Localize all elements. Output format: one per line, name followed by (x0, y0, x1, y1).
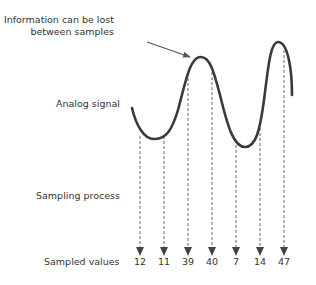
sample-value-4: 40 (200, 256, 224, 267)
sample-value-5: 7 (224, 256, 248, 267)
sample-value-6: 14 (248, 256, 272, 267)
sampling-diagram (0, 0, 316, 285)
annotation-arrow (147, 42, 190, 57)
sample-value-3: 39 (176, 256, 200, 267)
sampling-lines (140, 50, 284, 250)
sampling-arrowheads (136, 247, 288, 256)
sample-value-2: 11 (152, 256, 176, 267)
sample-value-7: 47 (272, 256, 296, 267)
sample-value-1: 12 (128, 256, 152, 267)
